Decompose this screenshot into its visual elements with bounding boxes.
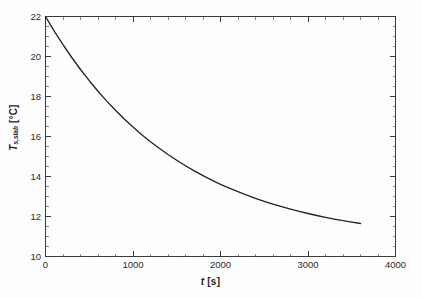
svg-text:1000: 1000 [122, 259, 143, 270]
svg-text:0: 0 [43, 259, 48, 270]
figure-canvas: 0100020003000400010121416182022 Ts,slab … [0, 0, 421, 298]
svg-text:2000: 2000 [210, 259, 231, 270]
svg-text:4000: 4000 [385, 259, 406, 270]
svg-text:3000: 3000 [297, 259, 318, 270]
svg-text:12: 12 [30, 211, 41, 222]
svg-text:18: 18 [30, 91, 41, 102]
data-series-line [46, 17, 361, 224]
y-axis-title-unit: [°C] [7, 105, 18, 124]
svg-text:22: 22 [30, 11, 41, 22]
svg-text:10: 10 [30, 251, 41, 262]
y-axis-title: Ts,slab [°C] [7, 105, 18, 151]
axis-tick-labels: 0100020003000400010121416182022 [30, 11, 406, 270]
svg-text:20: 20 [30, 51, 41, 62]
x-axis-title: t [s] [0, 276, 421, 287]
y-axis-title-container: Ts,slab [°C] [0, 0, 26, 256]
y-axis-title-unit-spacer [7, 123, 18, 126]
y-axis-title-variable: T [7, 145, 18, 151]
svg-text:14: 14 [30, 171, 41, 182]
plot-area: 0100020003000400010121416182022 [0, 0, 421, 298]
svg-text:16: 16 [30, 131, 41, 142]
curve-T_s,slab [46, 17, 361, 224]
x-axis-title-unit: [s] [207, 276, 220, 287]
y-axis-title-subscript: s,slab [12, 126, 19, 144]
